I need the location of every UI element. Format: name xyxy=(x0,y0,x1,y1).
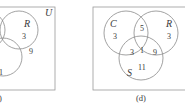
universe-label-c: U xyxy=(45,7,53,18)
set-circle-c-c xyxy=(0,11,5,49)
venn-figure: U R 3 9 1 ) C 3 5 R 3 3 1 9 11 S (d) xyxy=(0,0,185,105)
region-r-only: 3 xyxy=(167,32,171,41)
region-c-and-r: 5 xyxy=(140,24,144,33)
set-label-c: C xyxy=(110,18,117,29)
region-s-partial-c: 1 xyxy=(0,68,3,77)
region-r-only-c: 3 xyxy=(22,32,26,41)
set-circle-r-c xyxy=(0,11,38,49)
panel-c: U R 3 9 1 ) xyxy=(0,7,55,103)
panel-d: C 3 5 R 3 3 1 9 11 S (d) xyxy=(93,7,185,103)
set-label-s: S xyxy=(127,67,132,78)
caption-d: (d) xyxy=(136,93,146,103)
set-label-r: R xyxy=(165,18,172,29)
region-c-only: 3 xyxy=(113,32,117,41)
region-c-r-s: 1 xyxy=(140,46,144,55)
set-circle-s-c xyxy=(0,38,22,76)
region-r-and-s-c: 9 xyxy=(29,47,33,56)
set-label-r-c: R xyxy=(23,18,30,29)
set-circle-s xyxy=(119,36,163,80)
region-r-and-s: 9 xyxy=(153,48,157,57)
region-s-only: 11 xyxy=(138,63,146,72)
region-c-and-s: 3 xyxy=(130,48,134,57)
caption-c: ) xyxy=(0,93,2,103)
